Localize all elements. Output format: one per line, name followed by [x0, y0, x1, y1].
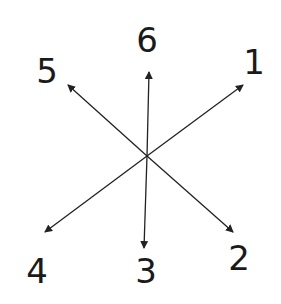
label-2: 2 [228, 241, 250, 275]
label-3: 3 [135, 254, 157, 288]
label-1: 1 [243, 45, 265, 79]
arrow-6 [147, 72, 149, 156]
arrow-2 [147, 156, 233, 232]
label-6: 6 [136, 23, 158, 57]
arrow-5 [68, 85, 147, 156]
arrow-1 [147, 85, 243, 156]
label-5: 5 [36, 54, 58, 88]
label-4: 4 [26, 254, 48, 288]
arrow-3 [144, 156, 147, 248]
arrow-4 [45, 156, 147, 232]
